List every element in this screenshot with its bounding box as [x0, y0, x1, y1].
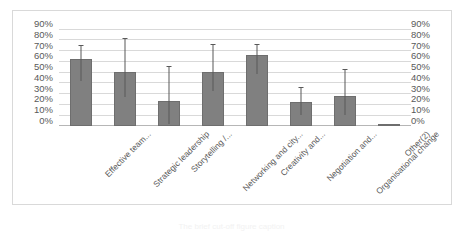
- error-bar-cap: [211, 44, 216, 45]
- bar-group[interactable]: [191, 29, 235, 126]
- error-bar-line: [301, 87, 302, 115]
- y-axis-tick-left: 60%: [19, 51, 53, 61]
- figure-caption: The brief cut-off figure caption: [0, 222, 463, 232]
- y-axis-tick-left: 50%: [19, 62, 53, 72]
- y-axis-tick-left: 90%: [19, 19, 53, 29]
- y-axis-tick-left: 20%: [19, 94, 53, 104]
- bar-group[interactable]: [367, 29, 411, 126]
- bar-group[interactable]: [235, 29, 279, 126]
- y-axis-tick-right: 10%: [411, 105, 445, 115]
- error-bar-cap: [167, 66, 172, 67]
- y-axis-tick-left: 40%: [19, 73, 53, 83]
- bar-group[interactable]: [279, 29, 323, 126]
- x-axis-tick-label: Negotiation and...: [325, 129, 379, 183]
- x-axis-category-labels: Effective team...Strategic leadershipSto…: [59, 129, 411, 205]
- y-axis-tick-right: 0%: [411, 116, 445, 126]
- bar[interactable]: [378, 124, 400, 126]
- y-axis-tick-right: 30%: [411, 84, 445, 94]
- y-axis-tick-right: 50%: [411, 62, 445, 72]
- error-bar-cap: [255, 44, 260, 45]
- bar-group[interactable]: [147, 29, 191, 126]
- chart-container: 90%80%70%60%50%40%30%20%10%0% 90%80%70%6…: [12, 10, 452, 205]
- bar-group[interactable]: [103, 29, 147, 126]
- bar-group[interactable]: [323, 29, 367, 126]
- error-bar-line: [257, 44, 258, 74]
- y-axis-tick-left: 30%: [19, 84, 53, 94]
- error-bar-cap: [299, 87, 304, 88]
- bar-group[interactable]: [59, 29, 103, 126]
- x-axis-tick-label: Effective team...: [103, 129, 153, 179]
- y-axis-tick-left: 70%: [19, 41, 53, 51]
- y-axis-tick-right: 80%: [411, 30, 445, 40]
- x-axis-tick-label: Organisational change: [374, 129, 441, 196]
- y-axis-tick-right: 60%: [411, 51, 445, 61]
- y-axis-right-labels: 90%80%70%60%50%40%30%20%10%0%: [411, 24, 445, 127]
- error-bar-line: [169, 66, 170, 124]
- error-bar-cap: [123, 38, 128, 39]
- plot-area: [59, 29, 411, 126]
- error-bar-cap: [79, 45, 84, 46]
- error-bar-line: [81, 45, 82, 82]
- error-bar-line: [213, 44, 214, 91]
- y-axis-tick-left: 10%: [19, 105, 53, 115]
- y-axis-tick-right: 20%: [411, 94, 445, 104]
- error-bar-line: [345, 69, 346, 114]
- y-axis-tick-left: 0%: [19, 116, 53, 126]
- y-axis-tick-right: 40%: [411, 73, 445, 83]
- y-axis-tick-right: 90%: [411, 19, 445, 29]
- y-axis-tick-left: 80%: [19, 30, 53, 40]
- y-axis-left-labels: 90%80%70%60%50%40%30%20%10%0%: [19, 24, 53, 127]
- y-axis-tick-right: 70%: [411, 41, 445, 51]
- error-bar-line: [125, 38, 126, 97]
- error-bar-cap: [343, 69, 348, 70]
